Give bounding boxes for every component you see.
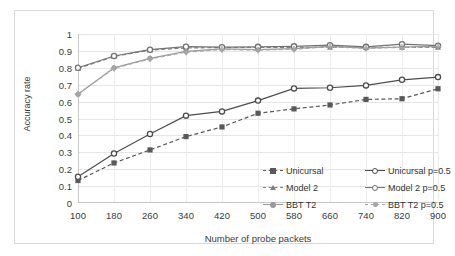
y-tick-label: 0 [67,198,72,209]
y-tick-label: 0.3 [59,147,72,158]
legend-item-model-2-p-0-5[interactable]: Model 2 p=0.5 [365,183,455,193]
legend-swatch-icon [263,166,283,175]
y-tick-label: 0.2 [59,164,72,175]
x-tick-label: 100 [70,210,86,221]
y-tick-label: 0.8 [59,62,72,73]
legend-label: BBT T2 p=0.5 [388,200,443,210]
y-tick-label: 0.7 [59,79,72,90]
legend-label: Model 2 [286,183,318,193]
series-bbt-t2-p-0-5 [75,43,441,97]
chart-frame: Accuracy rate Number of probe packets 00… [14,10,434,244]
y-tick-label: 0.1 [59,181,72,192]
y-axis-label: Accuracy rate [22,59,32,149]
legend-swatch-icon [263,200,283,209]
legend-swatch-icon [365,200,385,209]
y-tick-label: 0.5 [59,113,72,124]
x-tick-label: 420 [214,210,230,221]
legend-label: Unicursal [286,166,324,176]
x-tick-label: 340 [178,210,194,221]
plot-area: 00.10.20.30.40.50.60.70.80.91 1001802603… [78,34,438,203]
y-tick-label: 0.9 [59,45,72,56]
x-axis-label: Number of probe packets [78,233,438,244]
legend-item-model-2[interactable]: Model 2 [263,183,365,193]
y-tick-label: 1 [67,29,72,40]
x-tick-label: 260 [142,210,158,221]
legend-item-unicursal[interactable]: Unicursal [263,166,365,176]
x-tick-label: 180 [106,210,122,221]
chart-legend: UnicursalUnicursal p=0.5Model 2Model 2 p… [263,162,455,213]
legend-item-bbt-t2[interactable]: BBT T2 [263,200,365,210]
legend-item-unicursal-p-0-5[interactable]: Unicursal p=0.5 [365,166,455,176]
series-model-2-p-0-5 [75,42,440,71]
y-tick-label: 0.4 [59,130,72,141]
legend-swatch-icon [263,183,283,192]
legend-swatch-icon [365,183,385,192]
legend-item-bbt-t2-p-0-5[interactable]: BBT T2 p=0.5 [365,200,455,210]
y-tick-label: 0.6 [59,96,72,107]
legend-label: Model 2 p=0.5 [388,183,445,193]
legend-label: Unicursal p=0.5 [388,166,451,176]
legend-label: BBT T2 [286,200,316,210]
legend-swatch-icon [365,166,385,175]
